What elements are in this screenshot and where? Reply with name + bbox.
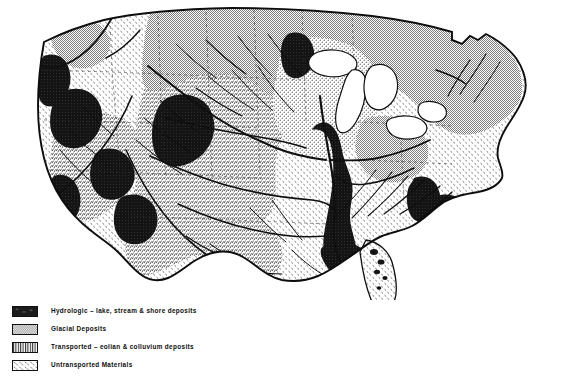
swatch-untransported	[12, 360, 38, 371]
figure-surficial-deposits-map: Hydrologic – lake, stream & shore deposi…	[0, 0, 568, 385]
lake-ontario	[418, 101, 446, 122]
swatch-transported	[12, 342, 38, 353]
legend-item-untransported: Untransported Materials	[12, 356, 133, 374]
map-fill-layer	[0, 0, 568, 300]
swatch-glacial	[12, 324, 38, 335]
us-surficial-deposits-map	[0, 0, 568, 300]
legend-item-glacial: Glacial Deposits	[12, 320, 106, 338]
map-container	[0, 0, 568, 300]
legend-item-hydrologic: Hydrologic – lake, stream & shore deposi…	[12, 302, 197, 320]
legend-item-transported: Transported – eolian & colluvium deposit…	[12, 338, 194, 356]
swatch-hydrologic	[12, 306, 38, 317]
legend-label-glacial: Glacial Deposits	[51, 325, 106, 333]
legend-label-transported: Transported – eolian & colluvium deposit…	[51, 343, 194, 351]
surficial-deposits-legend: Hydrologic – lake, stream & shore deposi…	[12, 302, 312, 382]
florida-peninsula	[360, 240, 396, 300]
legend-label-untransported: Untransported Materials	[51, 361, 133, 369]
legend-label-hydrologic: Hydrologic – lake, stream & shore deposi…	[51, 307, 197, 315]
lake-erie	[386, 116, 426, 139]
